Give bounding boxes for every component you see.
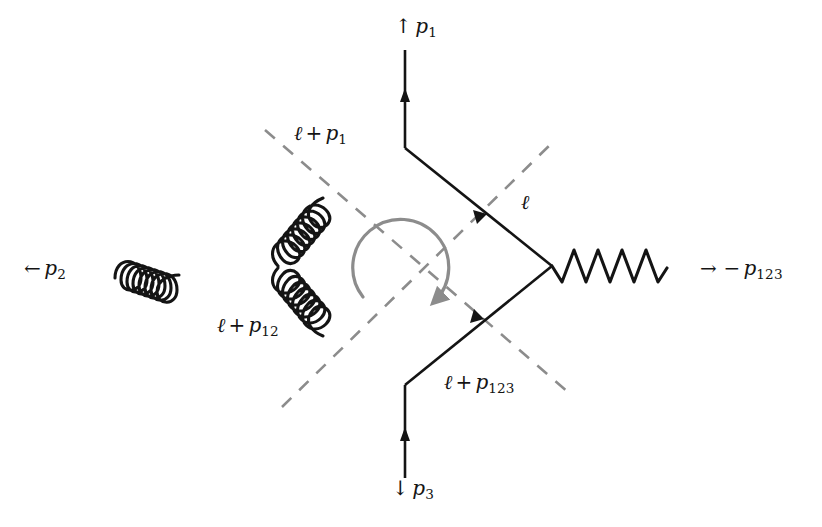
- cut-nw-se: [265, 130, 568, 392]
- label-l-p12-subscript: 12: [261, 323, 279, 339]
- loop-edge-upper-left-gluon: [273, 198, 330, 266]
- label-p123-sign: −: [720, 256, 743, 280]
- p3-arrowhead-icon: [400, 427, 410, 441]
- label-l-p123-term: p: [475, 370, 488, 394]
- label-l-p12-operator: +: [225, 313, 248, 337]
- lower-right-fermion-line: [405, 266, 552, 385]
- label-p123-subscript: 123: [756, 266, 782, 282]
- external-leg-p1: [400, 50, 410, 148]
- label-l-p1-term: p: [325, 121, 338, 145]
- external-leg-p3: [400, 385, 410, 478]
- label-external-p123: →−p123: [700, 258, 783, 281]
- loop-edge-lower-right-fermion: [405, 266, 552, 385]
- label-p1-symbol: p: [415, 14, 428, 38]
- label-p1-arrow-icon: ↑: [395, 14, 415, 38]
- label-l-p1-operator: +: [302, 121, 325, 145]
- label-p3-arrow-icon: ↓: [392, 476, 412, 500]
- cut-lines-group: [265, 130, 568, 407]
- label-p1-subscript: 1: [428, 24, 437, 40]
- label-external-p3: ↓p3: [392, 478, 434, 501]
- label-l-p12-term: p: [248, 313, 261, 337]
- loop-edge-lower-left-gluon: [273, 268, 330, 336]
- upper-left-gluon-coil: [273, 198, 330, 266]
- p123-photon-wave: [552, 250, 667, 282]
- label-l-p123-subscript: 123: [488, 380, 514, 396]
- label-p2-symbol: p: [44, 256, 57, 280]
- label-loop-l-plus-p123: ℓ+p123: [444, 372, 515, 395]
- p1-arrowhead-icon: [400, 88, 410, 102]
- label-p3-subscript: 3: [425, 486, 434, 502]
- lower-right-arrowhead-icon: [470, 309, 484, 323]
- label-external-p2: ←p2: [24, 258, 66, 281]
- feynman-diagram-figure: ↑p1 ←p2 ↓p3 →−p123 ℓ+p1 ℓ ℓ+p12 ℓ+p123: [0, 0, 822, 527]
- loop-orientation-arrow: [353, 219, 449, 302]
- label-p2-subscript: 2: [57, 266, 66, 282]
- label-loop-l: ℓ: [521, 192, 529, 212]
- label-p3-symbol: p: [412, 476, 425, 500]
- diagram-canvas: [0, 0, 822, 527]
- label-l-ell: ℓ: [521, 190, 529, 214]
- label-p123-arrow-icon: →: [700, 256, 720, 280]
- label-loop-l-plus-p12: ℓ+p12: [217, 315, 279, 338]
- external-leg-p123: [552, 250, 667, 282]
- label-p2-arrow-icon: ←: [24, 256, 44, 280]
- lower-left-gluon-coil: [273, 268, 330, 336]
- p2-gluon-coil: [115, 262, 179, 303]
- label-external-p1: ↑p1: [395, 16, 437, 39]
- label-l-p1-subscript: 1: [338, 131, 347, 147]
- label-loop-l-plus-p1: ℓ+p1: [294, 123, 347, 146]
- label-p123-symbol: p: [744, 256, 757, 280]
- external-leg-p2: [115, 262, 179, 303]
- label-l-p123-operator: +: [452, 370, 475, 394]
